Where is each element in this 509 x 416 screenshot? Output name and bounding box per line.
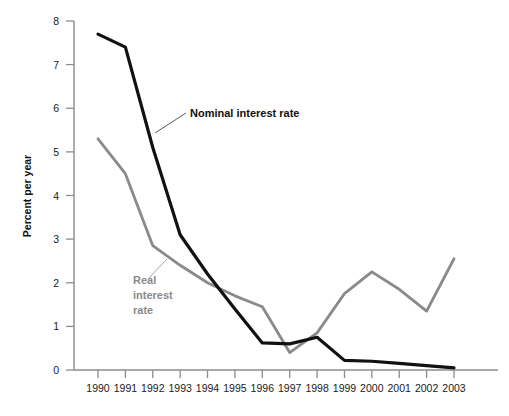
real-series-label-line3: rate (133, 304, 153, 316)
x-tick-label: 1997 (278, 382, 302, 394)
y-tick-label: 7 (53, 59, 59, 71)
x-tick-label: 2001 (388, 382, 412, 394)
nominal-series-label: Nominal interest rate (190, 107, 299, 119)
y-tick-label: 1 (53, 320, 59, 332)
y-axis-title: Percent per year (21, 155, 33, 237)
x-tick-label: 1990 (86, 382, 110, 394)
real-series-label-line1: Real (133, 274, 156, 286)
x-tick-label: 1999 (333, 382, 357, 394)
y-tick-label: 5 (53, 146, 59, 158)
x-tick-label: 1998 (305, 382, 329, 394)
real-series-label-line2: interest (133, 289, 173, 301)
y-tick-label: 8 (53, 15, 59, 27)
x-tick-label: 1996 (251, 382, 275, 394)
y-tick-label: 2 (53, 277, 59, 289)
chart-background (0, 0, 509, 416)
x-tick-label: 1995 (223, 382, 247, 394)
x-tick-label: 1991 (114, 382, 138, 394)
x-tick-label: 1992 (141, 382, 165, 394)
y-tick-label: 4 (53, 190, 59, 202)
x-tick-label: 1993 (169, 382, 193, 394)
x-tick-label: 2000 (360, 382, 384, 394)
interest-rate-line-chart: 8 7 6 5 4 3 2 1 0 Percent per year (0, 0, 509, 416)
x-tick-label: 1994 (196, 382, 220, 394)
y-tick-label: 0 (53, 364, 59, 376)
x-tick-label: 2002 (415, 382, 439, 394)
y-tick-label: 6 (53, 102, 59, 114)
y-tick-label: 3 (53, 233, 59, 245)
x-tick-label: 2003 (442, 382, 466, 394)
chart-figure: 8 7 6 5 4 3 2 1 0 Percent per year (0, 0, 509, 416)
y-axis-tick-labels: 8 7 6 5 4 3 2 1 0 (53, 15, 59, 376)
